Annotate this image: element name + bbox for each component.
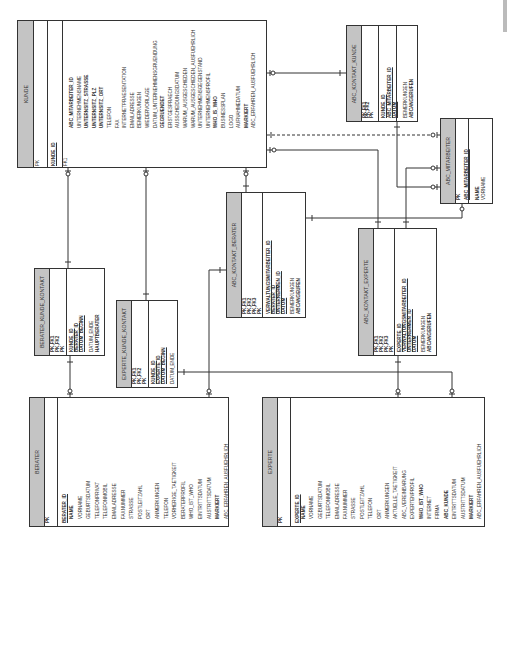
entity-berater-kunde-kontakt[interactable]: BERATER_KUNDE_KONTAKT PK,FK1PK,FK2PK KUN…	[34, 268, 105, 356]
pk-column: KUNDE_IDBERATER_IDDATUM_BEGINN	[49, 269, 67, 355]
attribute-field: AUSSCHEIDUNGSDATUM	[175, 72, 180, 128]
attribute-field: EINTRITTSDATUM	[198, 479, 203, 519]
attribute-field: AUSTRITTSDATUM	[207, 477, 212, 519]
entity-title: BERATER_KUNDE_KONTAKT	[39, 276, 45, 348]
attribute-field: ORT	[377, 509, 382, 519]
pk-field: ABC_MITARBEITER_ID	[387, 67, 392, 118]
attribute-field: ABC_ERFAHREN_AUSFUEHRLICH	[224, 444, 229, 519]
entity-header: ABC_KONTAKT_EXPERTE	[359, 229, 374, 355]
attribute-field: GEGRUENDET	[160, 96, 165, 128]
pk-column: EXPERTE_ID	[277, 398, 291, 526]
attribute-field: HAUPTBERATER	[95, 314, 100, 352]
pk-column: EXPERTE_IDVERWALTUNGSMITARBEITER_IDUNTER…	[373, 229, 395, 355]
attribute-field: BEMERKUNGEN	[421, 316, 426, 352]
attribute-field: MARKIERT	[244, 104, 249, 128]
attribute-field: EMAILADRESSE	[335, 483, 340, 519]
attribute-field: FIRMA	[435, 505, 440, 519]
attribute-field: ANMERKUNGEN	[155, 483, 160, 519]
entity-header: ABC_MITARBEITER	[441, 119, 456, 203]
attribute-column: BEMERKUNGENABCANGERUFEN	[397, 26, 419, 121]
attribute-column: BEMERKUNGENABCANGEUFEN	[284, 193, 307, 317]
attribute-column: NAMEVORNAME	[469, 119, 494, 203]
entity-header: BERATER_KUNDE_KONTAKT	[35, 269, 50, 355]
attribute-field: POSTLEITZAHL	[360, 485, 365, 519]
attribute-field: ABC_KUNDE	[444, 490, 449, 519]
entity-berater[interactable]: BERATER PK BERATER_ID NAMEVORNAMEGEBURTS…	[29, 397, 229, 527]
attribute-field: ERSTGESPRAECH	[168, 87, 173, 128]
attribute-field: WARUM_AUSGESCHIEDEN_AUSFUEHRLICH	[191, 30, 196, 128]
entity-header: EXPERTE	[263, 398, 278, 526]
attribute-field: BUSINESSPLAN	[221, 93, 226, 128]
attribute-field: BERATERPROFIL	[181, 481, 186, 519]
entity-abc-mitarbeiter[interactable]: ABC_MITARBEITER PK ABC_MITARBEITER_ID NA…	[440, 118, 493, 204]
attribute-field: AUFNAHMEDATUM	[236, 86, 241, 128]
key-column: PK	[33, 21, 48, 167]
entity-abc-kontakt-kunde[interactable]: ABC_KONTAKT_KUNDE PK,FK1PK,FK2PK KUNDE_I…	[346, 25, 418, 122]
entity-title: ABC_KONTAKT_EXPERTE	[363, 260, 369, 325]
pk-column: KUNDE_IDEXPERTE_IDDATUM_BEGINN	[131, 301, 149, 387]
pk-column: ABC_MITARBEITER_ID	[455, 119, 469, 203]
attribute-field: AUSTRITTSDATUM	[461, 477, 466, 519]
pk-column: VERWALTUNGSMITARBEITER_IDBERATER_IDUNTER…	[241, 193, 263, 317]
attribute-field: VORNAME	[481, 177, 486, 200]
attribute-field: POSTLEITZAHL	[138, 485, 143, 519]
entity-title: EXPERTE_KUNDE_KONTAKT	[121, 308, 127, 380]
attribute-field: TELEFON	[107, 107, 112, 128]
entity-title: ABC_KONTAKT_BERATER	[231, 223, 237, 288]
attribute-field: ABC_MITARBEITER_ID	[69, 77, 74, 128]
attribute-field: ABC_ERFAHREN_AUSFUEHRLICH	[477, 444, 482, 519]
attribute-field: GEBURTSDATUM	[318, 481, 323, 519]
attribute-field: MARKIERT	[215, 495, 220, 519]
attribute-field: TELEFON	[164, 498, 169, 519]
attribute-field: ABCANGERUFEN	[427, 313, 432, 352]
entity-abc-kontakt-experte[interactable]: ABC_KONTAKT_EXPERTE PK,FK1PK,FK2PK,FK3PK…	[358, 228, 437, 356]
attribute-field: FAX	[115, 119, 120, 128]
attribute-field: UNTERNSITZ_STRASSE	[84, 75, 89, 128]
entity-header: KUNDE	[18, 21, 34, 167]
entity-experte-kunde-kontakt[interactable]: EXPERTE_KUNDE_KONTAKT PK,FK1PK,FK2PK KUN…	[116, 300, 178, 388]
attribute-field: LOGO	[229, 115, 234, 128]
attribute-field: ABC_ERFAHREN_AUSFUEHRLICH	[251, 53, 256, 128]
attribute-field: EXPERTENPROFIL	[410, 478, 415, 519]
attribute-field: STRASSE	[129, 498, 134, 519]
entity-abc-kontakt-berater[interactable]: ABC_KONTAKT_BERATER PK,FK1PK,FK2PK,FK3PK…	[226, 192, 306, 318]
attribute-field: INTERNET	[427, 496, 432, 519]
attribute-field: DATUM_UNTERNEHMENSGRUENDUNG	[153, 41, 158, 128]
attribute-field: NAME	[69, 505, 74, 519]
attribute-field: VORNAME	[78, 496, 83, 519]
attribute-field: VORHERIGE_TAETIGKEIT	[172, 462, 177, 519]
attribute-column: NAMEVORNAMEGEBURTSDATUMTELEFONMOBILEMAIL…	[291, 398, 486, 526]
entity-title: KUNDE	[23, 85, 29, 103]
attribute-column: DATUM_ENDE	[165, 301, 179, 387]
attribute-field: UNTERNEHMENSGEGENSTAND	[198, 57, 203, 128]
attribute-column: BEMERKUNGENABCANGERUFEN	[415, 229, 438, 355]
pk-field: KUNDE_ID	[51, 143, 56, 166]
attribute-field: ABCANGERUFEN	[409, 79, 414, 118]
attribute-column: NAMEVORNAMEGEBURTSDATUMTELEFONPRIVATTELE…	[58, 398, 230, 526]
attribute-field: BEMERKUNGEN	[290, 278, 295, 314]
attribute-field: EMAILADRESSE	[112, 483, 117, 519]
entity-header: BERATER	[30, 398, 45, 526]
entity-title: EXPERTE	[267, 450, 273, 474]
attribute-field: ANMERKUNGEN	[385, 483, 390, 519]
entity-kunde[interactable]: KUNDE PK KUNDE_ID FK1 ABC_MITARBEITER_ID…	[17, 20, 267, 168]
entity-experte[interactable]: EXPERTE PK EXPERTE_ID NAMEVORNAMEGEBURTS…	[262, 397, 485, 527]
attribute-field: INTERNETPRAESENTATION	[122, 67, 127, 128]
attribute-field: DATUM_ENDE	[170, 353, 175, 384]
attribute-field: UNTERNSITZ_ORT	[99, 87, 104, 128]
attribute-field: VORNAME	[309, 496, 314, 519]
pk-column: KUNDE_ID	[48, 21, 63, 167]
entity-title: ABC_MITARBEITER	[445, 137, 451, 185]
key-label: PK	[369, 112, 374, 118]
attribute-field: ABC_VEREINBARUNG	[402, 470, 407, 519]
page-edge-mark	[503, 0, 507, 32]
attribute-field: WHO_IS_WHO	[213, 96, 218, 128]
attribute-field: MARKIERT	[469, 495, 474, 519]
attribute-field: WARUM_AUSGESCHIEDEN	[183, 68, 188, 128]
pk-column: KUNDE_IDABC_MITARBEITER_IDDATUM	[379, 26, 397, 121]
attribute-field: AKTUELLE_TAETIGKEIT	[393, 466, 398, 519]
attribute-column: FK1 ABC_MITARBEITER_IDUNTERNEHMENSNAMEUN…	[63, 21, 266, 167]
attribute-field: WIEDERVORLAGE	[145, 87, 150, 128]
attribute-field: NAME	[301, 505, 306, 519]
attribute-field: BEMERKUNGEN	[403, 82, 408, 118]
